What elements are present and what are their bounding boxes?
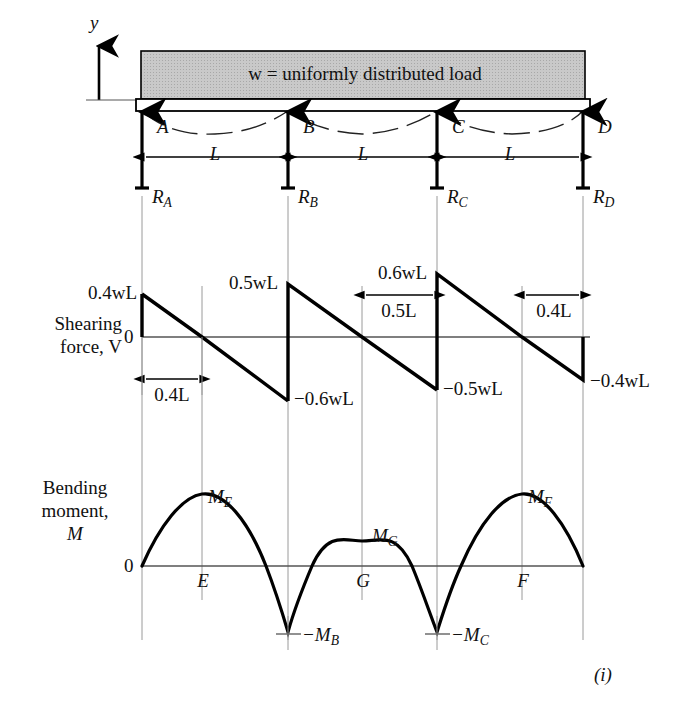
reaction-label-d: RD <box>593 186 614 210</box>
shear-value-b-left: −0.6wL <box>294 388 354 409</box>
span-label-ab: L <box>185 143 245 164</box>
beam-element <box>136 99 590 111</box>
shear-dim-left: 0.4L <box>142 384 202 405</box>
load-text: = uniformly distributed load <box>267 63 482 84</box>
moment-zero-label: 0 <box>124 555 134 576</box>
moment-point-label-g: G <box>343 570 383 591</box>
load-symbol: w <box>248 63 262 84</box>
moment-title-line3: M <box>20 523 130 544</box>
distributed-load-label: w = uniformly distributed load <box>230 63 500 84</box>
moment-negative-label-b: −MB <box>302 624 339 648</box>
shear-value-c-left: −0.5wL <box>443 378 503 399</box>
support-label-c: C <box>452 116 465 137</box>
figure-caption: (i) <box>594 664 612 685</box>
support-label-a: A <box>157 116 169 137</box>
shear-value-b-right: 0.5wL <box>229 272 278 293</box>
moment-peak-label-f: MF <box>528 486 552 510</box>
moment-peak-label-g: MG <box>372 525 398 549</box>
moment-point-label-e: E <box>183 570 223 591</box>
reaction-label-c: RC <box>447 186 468 210</box>
moment-negative-label-c: −MC <box>451 624 489 648</box>
y-axis-label: y <box>90 12 98 33</box>
moment-point-label-f: F <box>503 570 543 591</box>
shear-force-diagram <box>142 274 590 401</box>
figure-canvas <box>0 0 682 715</box>
shear-dim-middle: 0.5L <box>368 300 430 321</box>
deflected-shape-curve <box>142 111 583 134</box>
moment-title-line1: Bending <box>20 477 130 498</box>
span-label-cd: L <box>480 143 540 164</box>
support-label-d: D <box>598 116 612 137</box>
moment-peak-label-e: ME <box>208 486 232 510</box>
shear-value-d-left: −0.4wL <box>590 370 650 391</box>
moment-title-line2: moment, <box>20 500 130 521</box>
shear-value-c-right: 0.6wL <box>378 262 427 283</box>
span-label-bc: L <box>333 143 393 164</box>
reaction-label-a: RA <box>152 186 172 210</box>
shear-title-line2: force, V <box>12 336 122 357</box>
reaction-label-b: RB <box>298 186 318 210</box>
shear-dim-right: 0.4L <box>523 300 585 321</box>
shear-zero-label: 0 <box>124 326 134 347</box>
shear-title-line1: Shearing <box>12 313 122 334</box>
support-label-b: B <box>303 116 315 137</box>
shear-value-a: 0.4wL <box>88 282 137 303</box>
beam-diagram-figure: y w = uniformly distributed load A B C D… <box>0 0 682 715</box>
